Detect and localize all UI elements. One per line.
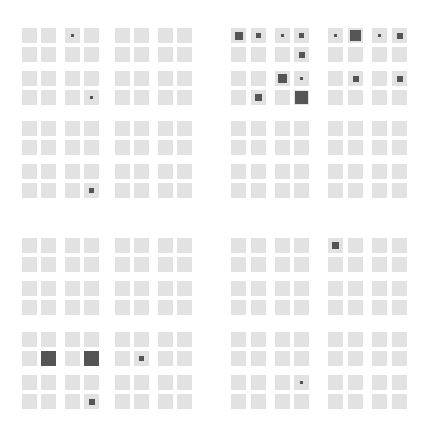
matrix-cell bbox=[158, 394, 173, 409]
matrix-cell bbox=[115, 238, 130, 253]
matrix-cell bbox=[251, 140, 266, 155]
matrix-cell bbox=[251, 238, 266, 253]
matrix-cell bbox=[65, 332, 80, 347]
matrix-cell bbox=[134, 375, 149, 390]
matrix-cell bbox=[65, 47, 80, 62]
matrix-cell bbox=[372, 332, 387, 347]
matrix-cell bbox=[41, 281, 56, 296]
matrix-cell bbox=[177, 281, 192, 296]
matrix-cell bbox=[294, 140, 309, 155]
matrix-cell bbox=[275, 183, 290, 198]
matrix-cell bbox=[328, 28, 343, 43]
matrix-cell bbox=[392, 375, 407, 390]
value-marker bbox=[71, 34, 74, 37]
matrix-cell bbox=[177, 332, 192, 347]
matrix-cell bbox=[251, 257, 266, 272]
matrix-cell bbox=[392, 394, 407, 409]
matrix-cell bbox=[372, 164, 387, 179]
matrix-cell bbox=[231, 375, 246, 390]
matrix-cell bbox=[22, 140, 37, 155]
matrix-cell bbox=[22, 300, 37, 315]
matrix-cell bbox=[158, 28, 173, 43]
matrix-cell bbox=[328, 183, 343, 198]
matrix-cell bbox=[177, 71, 192, 86]
matrix-cell bbox=[251, 351, 266, 366]
matrix-cell bbox=[84, 140, 99, 155]
matrix-cell bbox=[294, 394, 309, 409]
matrix-cell bbox=[348, 47, 363, 62]
matrix-cell bbox=[275, 164, 290, 179]
matrix-cell bbox=[372, 183, 387, 198]
matrix-cell bbox=[84, 90, 99, 105]
value-marker bbox=[378, 34, 381, 37]
matrix-cell bbox=[392, 351, 407, 366]
matrix-cell bbox=[115, 183, 130, 198]
matrix-cell bbox=[348, 300, 363, 315]
matrix-cell bbox=[392, 47, 407, 62]
matrix-cell bbox=[177, 394, 192, 409]
matrix-cell bbox=[134, 164, 149, 179]
matrix-cell bbox=[251, 164, 266, 179]
matrix-cell bbox=[84, 183, 99, 198]
matrix-cell bbox=[115, 140, 130, 155]
matrix-cell bbox=[84, 300, 99, 315]
matrix-cell bbox=[134, 183, 149, 198]
matrix-cell bbox=[41, 164, 56, 179]
hierarchical-matrix-grid bbox=[0, 0, 429, 428]
matrix-cell bbox=[84, 28, 99, 43]
matrix-cell bbox=[41, 71, 56, 86]
matrix-cell bbox=[158, 140, 173, 155]
matrix-cell bbox=[328, 281, 343, 296]
matrix-cell bbox=[65, 183, 80, 198]
matrix-cell bbox=[134, 257, 149, 272]
matrix-cell bbox=[22, 164, 37, 179]
matrix-cell bbox=[158, 375, 173, 390]
matrix-cell bbox=[158, 71, 173, 86]
matrix-cell bbox=[134, 332, 149, 347]
matrix-cell bbox=[115, 394, 130, 409]
matrix-cell bbox=[231, 164, 246, 179]
matrix-cell bbox=[275, 300, 290, 315]
matrix-cell bbox=[392, 121, 407, 136]
matrix-cell bbox=[372, 121, 387, 136]
matrix-cell bbox=[65, 300, 80, 315]
value-marker bbox=[299, 33, 304, 38]
matrix-cell bbox=[328, 90, 343, 105]
matrix-cell bbox=[328, 375, 343, 390]
matrix-cell bbox=[348, 121, 363, 136]
matrix-cell bbox=[84, 281, 99, 296]
matrix-cell bbox=[22, 183, 37, 198]
matrix-cell bbox=[115, 300, 130, 315]
matrix-cell bbox=[392, 257, 407, 272]
matrix-cell bbox=[84, 394, 99, 409]
matrix-cell bbox=[348, 28, 363, 43]
matrix-cell bbox=[158, 351, 173, 366]
matrix-cell bbox=[158, 164, 173, 179]
matrix-cell bbox=[251, 47, 266, 62]
matrix-cell bbox=[158, 47, 173, 62]
matrix-cell bbox=[328, 394, 343, 409]
matrix-cell bbox=[65, 121, 80, 136]
matrix-cell bbox=[328, 71, 343, 86]
matrix-cell bbox=[22, 90, 37, 105]
matrix-cell bbox=[372, 351, 387, 366]
matrix-cell bbox=[177, 140, 192, 155]
matrix-cell bbox=[348, 375, 363, 390]
matrix-cell bbox=[158, 257, 173, 272]
matrix-cell bbox=[84, 71, 99, 86]
matrix-cell bbox=[372, 90, 387, 105]
value-marker bbox=[89, 399, 95, 405]
matrix-cell bbox=[65, 164, 80, 179]
matrix-cell bbox=[115, 121, 130, 136]
matrix-cell bbox=[294, 332, 309, 347]
value-marker bbox=[139, 356, 144, 361]
matrix-cell bbox=[392, 281, 407, 296]
matrix-cell bbox=[65, 375, 80, 390]
matrix-cell bbox=[348, 257, 363, 272]
matrix-cell bbox=[158, 90, 173, 105]
matrix-cell bbox=[65, 238, 80, 253]
matrix-cell bbox=[158, 281, 173, 296]
matrix-cell bbox=[392, 332, 407, 347]
matrix-cell bbox=[65, 351, 80, 366]
matrix-cell bbox=[348, 90, 363, 105]
